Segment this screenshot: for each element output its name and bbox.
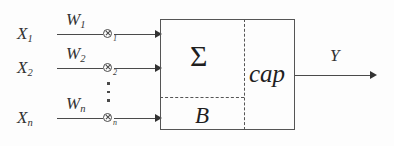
input-label-xn: Xn: [17, 109, 33, 129]
arrowhead-output: [370, 71, 377, 79]
circled-times-icon-n: [103, 113, 112, 122]
block-divider-vertical: [244, 19, 245, 130]
input-label-x1-base: X: [17, 24, 27, 43]
circled-times-icon-2: [103, 63, 112, 72]
output-label-y: Y: [330, 46, 339, 66]
signal-wire-x2-left: [57, 68, 103, 69]
weight-label-w1-subscript: 1: [80, 19, 85, 30]
circled-times-subscript-n: n: [113, 118, 117, 127]
block-divider-horizontal: [160, 97, 244, 98]
vertical-ellipsis-icon: [107, 82, 110, 108]
weight-label-wn-base: W: [66, 94, 80, 113]
weight-label-w2: W2: [66, 45, 85, 65]
sum-symbol: Σ: [190, 39, 207, 73]
circled-times-subscript-2: 2: [113, 68, 117, 77]
input-label-x2-subscript: 2: [27, 67, 32, 78]
ellipsis-dot: [107, 82, 110, 85]
ellipsis-dot: [107, 99, 110, 102]
signal-wire-xn-right: [114, 118, 158, 119]
signal-wire-x1-left: [57, 34, 103, 35]
weight-label-wn-subscript: n: [80, 103, 85, 114]
weight-label-wn: Wn: [66, 95, 85, 115]
input-label-x2-base: X: [17, 58, 27, 77]
input-label-xn-subscript: n: [27, 117, 32, 128]
signal-wire-x1-right: [114, 34, 158, 35]
weight-label-w2-subscript: 2: [80, 53, 85, 64]
signal-wire-x2-right: [114, 68, 158, 69]
diagram-canvas: X1 W1 1 X2 W2 2 Xn Wn n Σ B cap Y: [0, 0, 394, 146]
output-wire: [295, 75, 373, 76]
input-label-x2: X2: [17, 59, 33, 79]
bias-symbol: B: [195, 103, 209, 129]
input-label-x1-subscript: 1: [27, 33, 32, 44]
activation-label: cap: [249, 60, 285, 88]
input-label-x1: X1: [17, 25, 33, 45]
circled-times-subscript-1: 1: [113, 34, 117, 43]
signal-wire-xn-left: [57, 118, 103, 119]
weight-label-w2-base: W: [66, 44, 80, 63]
circled-times-icon-1: [103, 29, 112, 38]
input-label-xn-base: X: [17, 108, 27, 127]
weight-label-w1-base: W: [66, 10, 80, 29]
weight-label-w1: W1: [66, 11, 85, 31]
ellipsis-dot: [107, 91, 110, 94]
